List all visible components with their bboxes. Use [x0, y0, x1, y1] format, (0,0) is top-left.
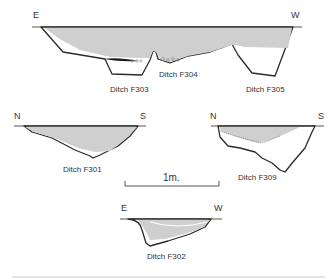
label-f303: Ditch F303	[110, 85, 149, 94]
section-drawings: E W Ditch F303 Ditch F304 Ditch F305 N S…	[0, 0, 335, 279]
label-f305: Ditch F305	[246, 85, 285, 94]
orientation-s-f301: S	[140, 111, 146, 121]
label-f309: Ditch F309	[238, 173, 277, 182]
orientation-e-f302: E	[121, 203, 127, 213]
scale-bar-label: 1m.	[163, 172, 180, 183]
scale-bar: 1m.	[125, 172, 219, 186]
orientation-w-f302: W	[214, 203, 223, 213]
section-f309: N S Ditch F309	[210, 111, 324, 182]
fill-layer-f301	[25, 127, 137, 152]
orientation-w-top: W	[291, 10, 300, 20]
section-f302: E W Ditch F302	[120, 203, 223, 261]
label-f302: Ditch F302	[147, 252, 186, 261]
label-f304: Ditch F304	[159, 70, 198, 79]
section-f301: N S Ditch F301	[14, 111, 146, 174]
orientation-n-f309: N	[210, 111, 217, 121]
orientation-e-top: E	[33, 10, 39, 20]
orientation-n-f301: N	[14, 111, 21, 121]
section-top: E W Ditch F303 Ditch F304 Ditch F305	[32, 10, 302, 94]
label-f301: Ditch F301	[63, 165, 102, 174]
orientation-s-f309: S	[318, 111, 324, 121]
